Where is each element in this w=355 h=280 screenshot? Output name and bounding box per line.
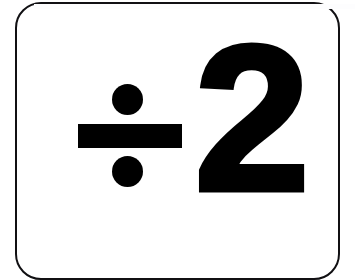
division-sign-lower-dot [112,156,143,187]
division-sign-icon [78,84,182,187]
division-sign-bar [78,124,182,148]
operand-numeral: 2 [190,18,310,218]
division-sign-upper-dot [112,84,143,115]
